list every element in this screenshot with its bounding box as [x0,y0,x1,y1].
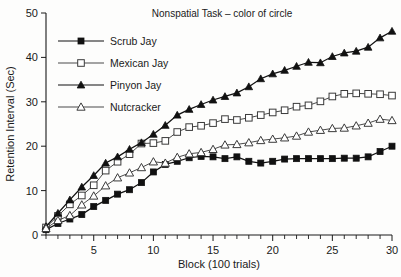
series-marker-scrub-jay [294,156,300,162]
series-marker-mexican-jay [281,107,288,114]
series-marker-pinyon-jay [173,111,181,118]
series-marker-scrub-jay [115,191,121,197]
series-marker-scrub-jay [270,158,276,164]
series-marker-scrub-jay [127,187,133,193]
series-marker-pinyon-jay [257,75,265,82]
chart-figure: 0102030405051015202530Block (100 trials)… [0,0,401,277]
y-tick-label: 20 [26,140,38,152]
axis-frame [46,13,392,235]
series-marker-mexican-jay [78,192,85,199]
series-line-scrub-jay [46,146,392,229]
series-marker-mexican-jay [365,91,372,98]
series-marker-mexican-jay [222,116,229,123]
series-marker-pinyon-jay [114,153,122,160]
series-marker-nutcracker [78,201,86,208]
series-marker-pinyon-jay [388,27,396,34]
y-tick-label: 30 [26,96,38,108]
chart-title: Nonspatial Task – color of circle [152,8,293,19]
series-marker-mexican-jay [174,129,181,136]
series-marker-nutcracker [137,163,145,170]
series-marker-mexican-jay [90,182,97,189]
series-line-nutcracker [46,119,392,228]
x-axis-title: Block (100 trials) [178,258,260,270]
series-marker-mexican-jay [210,120,217,127]
series-marker-mexican-jay [329,93,336,100]
series-marker-mexican-jay [353,90,360,97]
y-tick-label: 40 [26,51,38,63]
series-marker-scrub-jay [377,149,383,155]
series-marker-pinyon-jay [150,130,158,137]
x-tick-label: 10 [147,244,159,256]
series-marker-mexican-jay [257,112,264,119]
series-marker-mexican-jay [150,140,157,147]
y-axis-title: Retention Interval (Sec) [4,66,16,182]
series-marker-mexican-jay [162,138,169,145]
chart-canvas: 0102030405051015202530Block (100 trials)… [0,0,401,277]
x-tick-label: 25 [326,244,338,256]
series-marker-pinyon-jay [185,106,193,113]
y-tick-label: 50 [26,7,38,19]
series-marker-scrub-jay [91,204,97,210]
series-marker-scrub-jay [138,180,144,186]
legend-marker-scrub-jay [78,38,84,44]
series-marker-nutcracker [102,182,110,189]
series-marker-nutcracker [209,145,217,152]
series-marker-mexican-jay [246,114,253,121]
series-marker-scrub-jay [341,155,347,161]
series-marker-pinyon-jay [376,34,384,41]
series-marker-mexican-jay [186,124,193,131]
series-marker-scrub-jay [305,156,311,162]
series-marker-scrub-jay [222,156,228,162]
series-marker-nutcracker [125,169,133,176]
series-marker-pinyon-jay [126,146,134,153]
y-tick-label: 10 [26,185,38,197]
x-tick-label: 15 [207,244,219,256]
series-marker-scrub-jay [79,212,85,218]
series-marker-pinyon-jay [102,159,110,166]
x-tick-label: 20 [267,244,279,256]
series-marker-scrub-jay [353,155,359,161]
legend-label-mexican-jay: Mexican Jay [110,57,169,69]
series-marker-scrub-jay [317,156,323,162]
legend-marker-mexican-jay [78,60,85,67]
series-marker-mexican-jay [305,102,312,109]
series-marker-scrub-jay [282,156,288,162]
series-marker-pinyon-jay [245,83,253,90]
series-marker-scrub-jay [210,154,216,160]
series-marker-nutcracker [376,115,384,122]
series-marker-mexican-jay [341,91,348,98]
series-marker-mexican-jay [293,103,300,110]
series-marker-scrub-jay [246,158,252,164]
series-marker-scrub-jay [329,156,335,162]
series-line-pinyon-jay [46,31,392,226]
series-marker-mexican-jay [377,91,384,98]
series-marker-mexican-jay [317,98,324,105]
series-marker-mexican-jay [102,167,109,174]
legend-label-scrub-jay: Scrub Jay [110,35,157,47]
series-marker-scrub-jay [234,154,240,160]
legend-label-nutcracker: Nutcracker [110,101,161,113]
series-line-mexican-jay [46,93,392,227]
series-marker-scrub-jay [150,169,156,175]
series-marker-mexican-jay [389,92,396,99]
series-marker-mexican-jay [269,109,276,116]
x-tick-label: 5 [91,244,97,256]
legend-label-pinyon-jay: Pinyon Jay [110,79,162,91]
series-marker-scrub-jay [103,197,109,203]
series-marker-mexican-jay [198,122,205,129]
x-tick-label: 30 [386,244,398,256]
y-tick-label: 0 [32,229,38,241]
series-marker-pinyon-jay [233,89,241,96]
series-marker-mexican-jay [234,117,241,124]
series-marker-nutcracker [113,174,121,181]
series-marker-scrub-jay [389,143,395,149]
series-marker-scrub-jay [365,154,371,160]
series-marker-scrub-jay [258,160,264,166]
series-marker-nutcracker [149,158,157,165]
